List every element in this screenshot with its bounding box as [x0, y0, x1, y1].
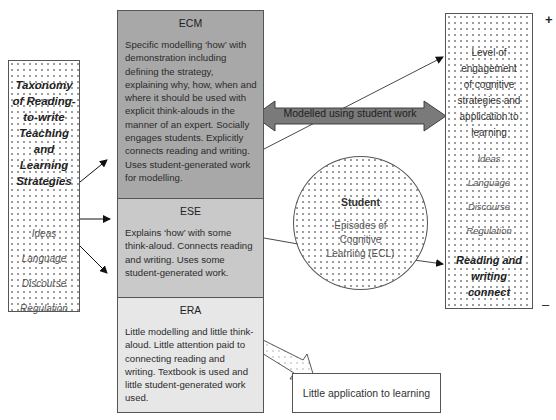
taxonomy-title-line: to-write: [9, 109, 79, 125]
connect-line: Reading and: [446, 252, 532, 268]
reading-writing-connect: Reading and writing connect: [446, 252, 532, 300]
student-subtitle-line: Cognitive: [294, 233, 427, 247]
engagement-item-discourse: Discourse: [446, 195, 532, 219]
engagement-title-line: engagement: [446, 61, 532, 77]
engagement-items: Ideas Language Discourse Regulation: [446, 147, 532, 243]
engagement-title-line: of cognitive: [446, 77, 532, 93]
taxonomy-title-line: Taxonomy: [9, 77, 79, 93]
taxonomy-title-line: Learning: [9, 157, 79, 173]
student-subtitle: Episodes of Cognitive Learning (ECL): [294, 219, 427, 261]
connect-line: writing: [446, 268, 532, 284]
line-ese-to-student: [264, 238, 298, 244]
engagement-title-line: strategies and: [446, 93, 532, 109]
arrow-ecm-to-right: [264, 57, 443, 149]
tier-ecm-description: Specific modelling ‘how’ with demonstrat…: [118, 38, 263, 184]
taxonomy-title-line: and: [9, 141, 79, 157]
tier-era: ERA Little modelling and little think-al…: [117, 297, 264, 413]
connect-line: connect: [446, 284, 532, 300]
tier-ecm-title: ECM: [118, 17, 263, 29]
taxonomy-title-line: of Reading-: [9, 93, 79, 109]
minus-scale-marker: –: [542, 297, 549, 312]
engagement-box: Level of engagement of cognitive strateg…: [445, 13, 533, 309]
engagement-item-language: Language: [446, 171, 532, 195]
student-subtitle-line: Learning (ECL): [294, 247, 427, 261]
engagement-title-line: Level of: [446, 45, 532, 61]
taxonomy-box: Taxonomy of Reading- to-write Teaching a…: [8, 60, 80, 312]
engagement-item-regulation: Regulation: [446, 219, 532, 243]
tier-ese-title: ESE: [118, 205, 263, 217]
taxonomy-items: Ideas Language Discourse Regulation: [9, 221, 79, 321]
tier-ecm: ECM Specific modelling ‘how’ with demons…: [117, 10, 264, 199]
taxonomy-item-ideas: Ideas: [9, 221, 79, 246]
taxonomy-item-language: Language: [9, 246, 79, 271]
tier-era-description: Little modelling and little think-aloud.…: [118, 325, 263, 405]
taxonomy-title-line: Strategies: [9, 173, 79, 189]
taxonomy-item-regulation: Regulation: [9, 296, 79, 321]
engagement-title: Level of engagement of cognitive strateg…: [446, 45, 532, 141]
tier-era-title: ERA: [118, 304, 263, 316]
double-arrow-label: Modelled using student work: [275, 107, 425, 119]
tier-ese-description: Explains ‘how’ with some think-aloud. Co…: [118, 226, 263, 279]
engagement-title-line: application to: [446, 109, 532, 125]
student-subtitle-line: Episodes of: [294, 219, 427, 233]
engagement-item-ideas: Ideas: [446, 147, 532, 171]
taxonomy-title-line: Teaching: [9, 125, 79, 141]
taxonomy-title: Taxonomy of Reading- to-write Teaching a…: [9, 77, 79, 189]
engagement-title-line: learning: [446, 125, 532, 141]
arrow-left-to-era: [80, 246, 107, 273]
student-circle: Student Episodes of Cognitive Learning (…: [293, 156, 428, 290]
tier-ese: ESE Explains ‘how’ with some think-aloud…: [117, 198, 264, 298]
student-title: Student: [294, 196, 427, 208]
taxonomy-item-discourse: Discourse: [9, 271, 79, 296]
little-application-box: Little application to learning: [292, 373, 441, 413]
plus-scale-marker: +: [545, 12, 553, 27]
arrow-left-to-ecm: [80, 160, 107, 182]
